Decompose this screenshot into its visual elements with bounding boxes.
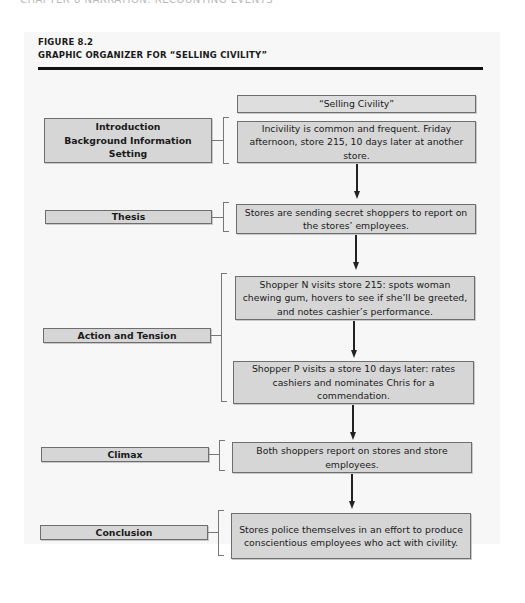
figure-number: FIGURE 8.2 [38, 37, 93, 47]
content-text: Shopper P visits a store 10 days later: … [240, 362, 467, 403]
content-text: Stores police themselves in an effort to… [238, 523, 464, 550]
label-action-tension: Action and Tension [43, 328, 211, 343]
bracket [221, 273, 227, 402]
arrow-down-icon [350, 432, 356, 440]
arrow-line [352, 405, 354, 433]
content-thesis: Stores are sending secret shoppers to re… [236, 204, 476, 234]
label-text: Climax [107, 448, 142, 462]
label-thesis: Thesis [45, 210, 212, 224]
content-text: Both shoppers report on stores and store… [239, 444, 465, 471]
content-text: Incivility is common and frequent. Frida… [244, 122, 469, 163]
bracket [218, 510, 224, 556]
content-action-2: Shopper P visits a store 10 days later: … [233, 361, 474, 404]
content-introduction: Incivility is common and frequent. Frida… [237, 121, 476, 163]
arrow-down-icon [354, 191, 360, 199]
label-text: Action and Tension [77, 329, 176, 343]
arrow-down-icon [349, 501, 355, 509]
label-line: Introduction [96, 120, 161, 134]
content-action-1: Shopper N visits store 215: spots woman … [235, 276, 475, 320]
content-climax: Both shoppers report on stores and store… [232, 442, 472, 473]
arrow-line [356, 164, 358, 192]
content-conclusion: Stores police themselves in an effort to… [231, 513, 471, 559]
label-introduction: Introduction Background Information Sett… [44, 118, 212, 163]
arrow-line [355, 235, 357, 263]
label-text: Thesis [112, 210, 146, 224]
label-text: Conclusion [96, 526, 153, 540]
content-text: Shopper N visits store 215: spots woman … [242, 278, 468, 319]
content-text: Stores are sending secret shoppers to re… [243, 206, 469, 233]
bracket [223, 202, 229, 232]
label-line: Setting [109, 147, 147, 161]
figure-title: GRAPHIC ORGANIZER FOR “SELLING CIVILITY” [38, 50, 267, 60]
bracket [223, 117, 229, 164]
label-line: Background Information [64, 134, 192, 148]
essay-title: “Selling Civility” [319, 97, 394, 111]
running-head: CHAPTER 8 NARRATION: RECOUNTING EVENTS [20, 0, 320, 6]
arrow-down-icon [353, 262, 359, 270]
arrow-line [353, 321, 355, 351]
title-rule [38, 67, 483, 70]
label-climax: Climax [41, 447, 209, 462]
arrow-line [351, 474, 353, 502]
label-conclusion: Conclusion [40, 525, 208, 540]
arrow-down-icon [351, 350, 357, 358]
bracket [219, 440, 225, 471]
essay-title-box: “Selling Civility” [237, 95, 476, 113]
